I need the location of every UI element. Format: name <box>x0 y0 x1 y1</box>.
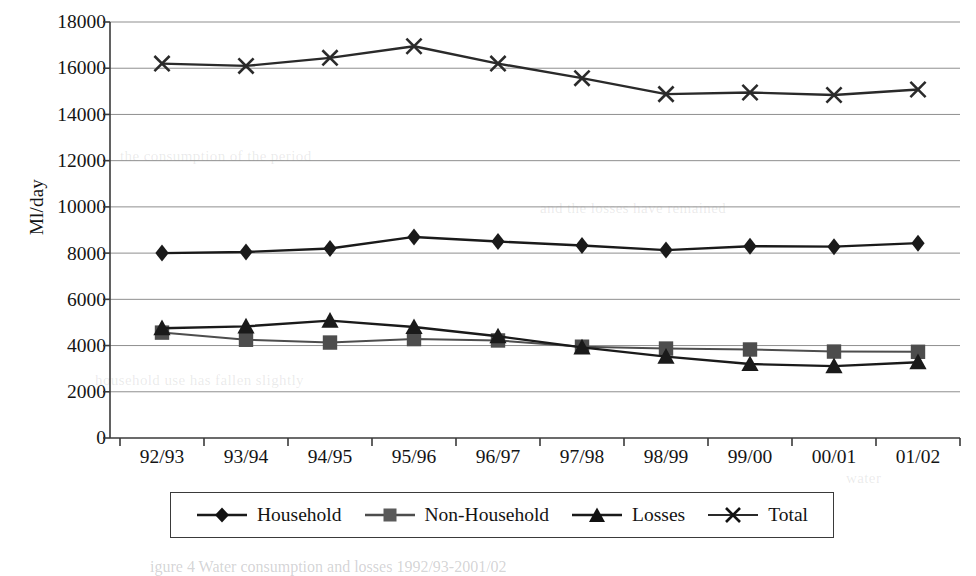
data-point-marker <box>491 233 504 250</box>
series-line <box>162 46 918 95</box>
axis-lines <box>110 22 960 438</box>
legend-item-non-household[interactable]: Non-Household <box>364 504 550 526</box>
axis-ticks <box>103 22 960 446</box>
legend-marker-diamond-icon <box>196 505 248 525</box>
data-point-marker <box>743 238 756 255</box>
legend-label-total: Total <box>762 504 808 526</box>
data-point-marker <box>407 228 420 245</box>
series-line <box>162 237 918 253</box>
data-point-marker <box>827 344 841 358</box>
data-point-marker <box>575 237 588 254</box>
legend-marker-square-icon <box>364 505 416 525</box>
data-point-marker <box>743 342 757 356</box>
data-point-marker <box>827 238 840 255</box>
legend-item-total[interactable]: Total <box>707 504 808 526</box>
plot-area <box>0 0 976 576</box>
legend-marker-cross-icon <box>707 505 759 525</box>
data-point-marker <box>911 235 924 252</box>
series-losses <box>153 312 926 373</box>
gridlines <box>110 22 960 392</box>
legend-label-non-household: Non-Household <box>419 504 550 526</box>
legend-item-losses[interactable]: Losses <box>571 504 685 526</box>
legend-marker-triangle-icon <box>571 505 623 525</box>
water-consumption-line-chart: the consumption of the period and the lo… <box>0 0 976 576</box>
data-point-marker <box>323 240 336 257</box>
chart-legend: Household Non-Household Losses Total <box>170 492 834 538</box>
data-point-marker <box>239 243 252 260</box>
data-point-marker <box>659 242 672 259</box>
series-total <box>154 39 925 103</box>
legend-item-household[interactable]: Household <box>196 504 342 526</box>
data-point-marker <box>239 333 253 347</box>
legend-label-losses: Losses <box>626 504 685 526</box>
data-series-layer <box>153 39 926 374</box>
data-point-marker <box>323 335 337 349</box>
data-point-marker <box>155 245 168 262</box>
series-household <box>155 228 924 261</box>
legend-label-household: Household <box>251 504 342 526</box>
